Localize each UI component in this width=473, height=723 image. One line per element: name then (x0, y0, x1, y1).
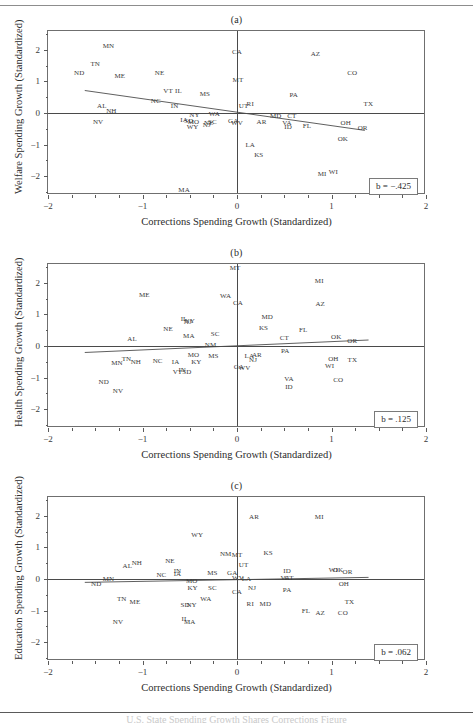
x-axis-minor-tick (190, 428, 191, 431)
data-point-label: CT (280, 335, 289, 342)
data-point-label: NE (155, 70, 165, 77)
data-point-label: ID (285, 384, 293, 391)
x-axis-tick-label: −2 (43, 667, 53, 677)
x-axis-major-tick (237, 195, 238, 199)
x-axis-major-tick (48, 661, 49, 665)
data-point-label: AZ (315, 301, 325, 308)
x-axis-minor-tick (379, 195, 380, 198)
y-axis-minor-tick (46, 626, 49, 627)
x-axis-minor-tick (119, 428, 120, 431)
data-point-label: MT (232, 551, 243, 558)
data-point-label: WA (200, 595, 211, 602)
x-axis-minor-tick (261, 661, 262, 664)
x-axis-tick-label: 2 (424, 434, 429, 444)
data-point-label: PA (283, 587, 292, 594)
x-axis-minor-tick (261, 195, 262, 198)
x-axis-minor-tick (261, 428, 262, 431)
y-axis-minor-tick (46, 267, 49, 268)
data-point-label: NC (151, 98, 161, 105)
data-point-label: MS (200, 91, 210, 98)
data-point-label: NV (113, 618, 123, 625)
y-axis-major-tick (44, 611, 48, 612)
y-axis-major-tick (44, 81, 48, 82)
regression-coefficient-box: b = .125 (374, 411, 418, 428)
y-axis-minor-tick (46, 500, 49, 501)
x-axis-major-tick (143, 661, 144, 665)
y-axis-tick-label: −1 (26, 140, 40, 150)
data-point-label: ME (114, 72, 125, 79)
data-point-label: OK (338, 135, 348, 142)
data-point-label: WV (231, 120, 243, 127)
x-axis-minor-tick (72, 661, 73, 664)
data-point-label: OH (339, 581, 349, 588)
x-axis-minor-tick (402, 195, 403, 198)
data-point-label: NY (186, 601, 196, 608)
y-axis-major-tick (44, 579, 48, 580)
panel-b: (b) MTMIMEWACAAZILNYNJMDNEKSFLMASCCTOKOR… (0, 247, 473, 475)
data-point-label: IA (174, 570, 182, 577)
panel-a-plot-area: MNTNNDMENECAAZCOMTVTILMSPATXNCUTRIALINNH… (47, 30, 425, 194)
panel-a-caption: (a) (0, 14, 473, 25)
data-point-label: SD (182, 368, 191, 375)
y-axis-major-tick (44, 176, 48, 177)
x-axis-minor-tick (379, 428, 380, 431)
data-point-label: TX (345, 598, 355, 605)
data-point-label: MA (178, 187, 189, 194)
y-axis-major-tick (44, 314, 48, 315)
x-axis-tick-label: −1 (138, 201, 148, 211)
data-point-label: OR (358, 125, 368, 132)
data-point-label: AZ (311, 50, 321, 57)
x-axis-minor-tick (284, 661, 285, 664)
data-point-label: MT (230, 264, 241, 271)
x-axis-tick-label: −2 (43, 434, 53, 444)
data-point-label: MI (315, 514, 324, 521)
data-point-label: OK (331, 334, 341, 341)
data-point-label: NM (205, 342, 216, 349)
data-point-label: MD (261, 313, 272, 320)
data-point-label: SC (211, 331, 220, 338)
figure-page: (a) MNTNNDMENECAAZCOMTVTILMSPATXNCUTRIAL… (0, 0, 473, 723)
y-axis-minor-tick (46, 595, 49, 596)
x-axis-tick-label: 0 (235, 201, 240, 211)
x-axis-tick-label: −1 (138, 667, 148, 677)
x-axis-major-tick (237, 428, 238, 432)
data-point-label: RI (247, 101, 254, 108)
y-axis-major-tick (44, 642, 48, 643)
x-axis-tick-label: 2 (424, 201, 429, 211)
x-axis-title: Corrections Spending Growth (Standardize… (0, 449, 473, 460)
panel-c-plot-area: ARMIWYNMMTKSALNHNEUTIDWIOKORNCINIAMSGAMO… (47, 496, 425, 660)
x-axis-major-tick (332, 195, 333, 199)
x-axis-minor-tick (308, 428, 309, 431)
data-point-label: IN (171, 102, 179, 109)
data-point-label: TX (364, 101, 374, 108)
data-point-label: MA (183, 332, 194, 339)
x-axis-major-tick (143, 428, 144, 432)
data-point-label: WA (220, 293, 231, 300)
x-axis-major-tick (237, 661, 238, 665)
data-point-label: OH (341, 120, 351, 127)
x-axis-tick-label: 1 (329, 667, 334, 677)
data-point-label: VT (163, 87, 173, 94)
regression-fit-line (48, 264, 424, 426)
y-axis-tick-label: −1 (26, 606, 40, 616)
x-axis-minor-tick (213, 195, 214, 198)
y-axis-minor-tick (46, 192, 49, 193)
data-point-label: TX (348, 357, 358, 364)
y-axis-major-tick (44, 547, 48, 548)
y-axis-tick-label: 2 (26, 511, 40, 521)
y-axis-tick-label: 2 (26, 45, 40, 55)
x-axis-minor-tick (355, 195, 356, 198)
data-point-label: NE (163, 325, 173, 332)
data-point-label: WI (325, 362, 334, 369)
data-point-label: ND (74, 69, 84, 76)
y-axis-major-tick (44, 145, 48, 146)
data-point-label: SC (208, 585, 217, 592)
data-point-label: FL (299, 327, 307, 334)
data-point-label: CO (338, 610, 348, 617)
data-point-label: NJ (203, 122, 211, 129)
x-axis-minor-tick (402, 428, 403, 431)
data-point-label: MT (233, 76, 244, 83)
data-point-label: CA (232, 49, 242, 56)
regression-coefficient-box: b = −.425 (369, 178, 418, 195)
y-axis-minor-tick (46, 393, 49, 394)
